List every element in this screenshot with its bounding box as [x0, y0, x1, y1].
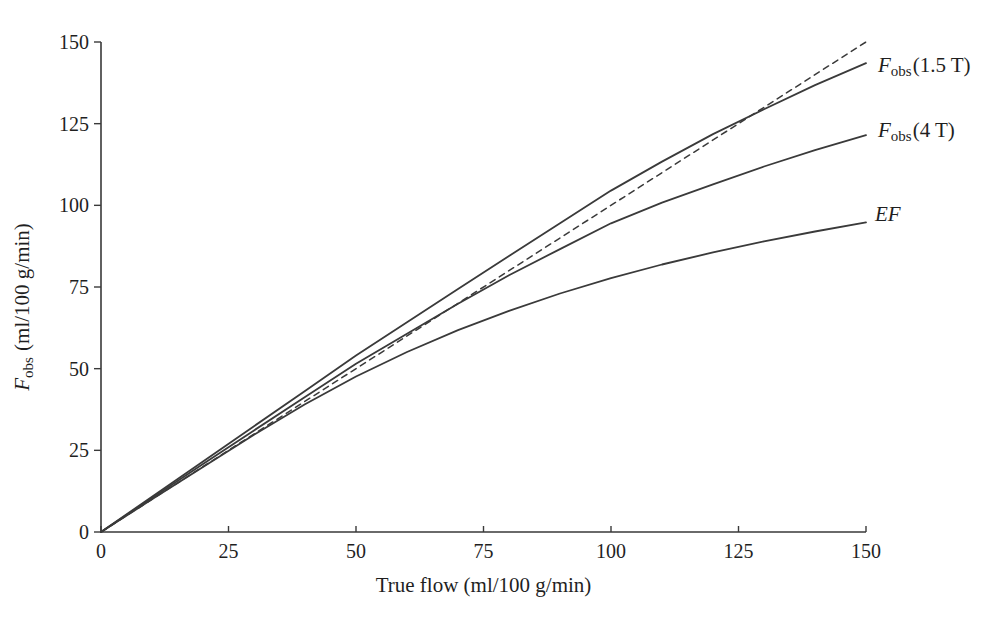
x-tick-label: 100	[596, 540, 626, 562]
y-tick-label: 100	[59, 194, 89, 216]
y-tick-label: 25	[69, 439, 89, 461]
x-tick-label: 125	[724, 540, 754, 562]
series-label-sub: obs	[891, 128, 912, 144]
series-label-rest: (4 T)	[913, 118, 955, 142]
chart-canvas: 02550751001251500255075100125150	[0, 0, 1005, 625]
x-axis-title: True flow (ml/100 g/min)	[101, 573, 866, 598]
figure: 02550751001251500255075100125150 Fobs(1.…	[0, 0, 1005, 625]
y-axis-title-main: F	[10, 378, 34, 391]
y-tick-label: 125	[59, 113, 89, 135]
series-label-fobs-1-5t: Fobs(1.5 T)	[878, 53, 971, 78]
series-label-rest: (1.5 T)	[913, 53, 971, 77]
y-tick-label: 0	[79, 521, 89, 543]
x-tick-label: 0	[96, 540, 106, 562]
y-tick-label: 50	[69, 358, 89, 380]
series-label-ef: EF	[875, 202, 901, 227]
x-tick-label: 75	[474, 540, 494, 562]
series-label-fobs-4t: Fobs(4 T)	[878, 118, 955, 143]
y-tick-label: 75	[69, 276, 89, 298]
curve-ef	[101, 222, 866, 532]
curve-fobs-4t	[101, 135, 866, 532]
curve-fobs-1-5t	[101, 63, 866, 532]
x-tick-label: 150	[851, 540, 881, 562]
y-axis-title: Fobs (ml/100 g/min)	[10, 223, 35, 391]
series-label-main: F	[878, 53, 891, 77]
y-axis-title-rest: (ml/100 g/min)	[10, 223, 34, 356]
series-label-main: F	[878, 118, 891, 142]
y-tick-label: 150	[59, 31, 89, 53]
y-axis-title-sub: obs	[20, 357, 36, 378]
x-tick-label: 50	[346, 540, 366, 562]
x-tick-label: 25	[219, 540, 239, 562]
series-label-sub: obs	[891, 63, 912, 79]
series-label-main: EF	[875, 202, 901, 226]
